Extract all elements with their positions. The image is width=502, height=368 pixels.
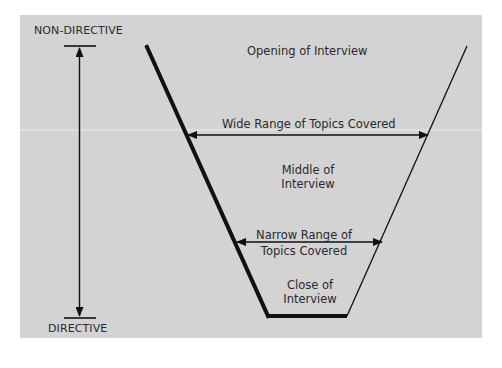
narrow-range-label: Narrow Range of Topics Covered: [252, 228, 356, 258]
narrow-line-1: Narrow Range of: [252, 228, 356, 242]
directive-scale: [64, 46, 96, 318]
close-line-1: Close of: [278, 278, 342, 292]
directive-label: DIRECTIVE: [48, 322, 107, 336]
funnel-left-edge: [147, 47, 268, 316]
close-of-interview-label: Close of Interview: [278, 278, 342, 306]
wide-range-label: Wide Range of Topics Covered: [222, 117, 396, 131]
opening-of-interview-label: Opening of Interview: [247, 44, 367, 58]
middle-line-2: Interview: [272, 177, 344, 191]
narrow-line-2: Topics Covered: [252, 244, 356, 258]
middle-of-interview-label: Middle of Interview: [272, 163, 344, 191]
funnel-right-edge: [347, 46, 467, 316]
diagram-canvas: NON-DIRECTIVE DIRECTIVE Opening of Inter…: [0, 0, 502, 368]
non-directive-label: NON-DIRECTIVE: [34, 24, 123, 38]
close-line-2: Interview: [278, 292, 342, 306]
middle-line-1: Middle of: [272, 163, 344, 177]
